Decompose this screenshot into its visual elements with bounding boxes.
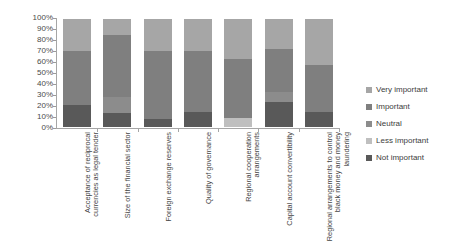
legend-swatch-icon <box>366 104 372 110</box>
legend-item[interactable]: Neutral <box>366 115 458 132</box>
bar-group <box>144 19 172 127</box>
stacked-bar[interactable] <box>63 19 91 127</box>
y-axis-tick-label: 0% <box>41 124 53 132</box>
legend-label: Less important <box>376 136 428 145</box>
legend-label: Neutral <box>376 119 402 128</box>
y-axis-tick-label: 80% <box>37 36 53 44</box>
bar-segment[interactable] <box>144 51 172 119</box>
x-axis-category-label: Capital account convertibility <box>286 132 300 244</box>
bar-group <box>184 19 212 127</box>
stacked-bar[interactable] <box>265 19 293 127</box>
bar-segment[interactable] <box>103 113 131 127</box>
bar-segment[interactable] <box>144 19 172 51</box>
stacked-bar-chart: 0%10%20%30%40%50%60%70%80%90%100% Accept… <box>0 0 459 249</box>
stacked-bar[interactable] <box>144 19 172 127</box>
bar-segment[interactable] <box>63 51 91 105</box>
legend-swatch-icon <box>366 121 372 127</box>
chart-legend: Very importantImportantNeutralLess impor… <box>366 81 458 166</box>
stacked-bar[interactable] <box>305 19 333 127</box>
bar-segment[interactable] <box>103 19 131 35</box>
bar-segment[interactable] <box>305 112 333 127</box>
stacked-bar[interactable] <box>103 19 131 127</box>
y-axis-tick-label: 30% <box>37 91 53 99</box>
bar-segment[interactable] <box>305 19 333 65</box>
x-axis-tick-mark <box>218 128 219 132</box>
x-axis-tick-mark <box>97 128 98 132</box>
stacked-bar[interactable] <box>184 19 212 127</box>
x-axis-tick-mark <box>178 128 179 132</box>
bar-segment[interactable] <box>265 49 293 92</box>
legend-item[interactable]: Less important <box>366 132 458 149</box>
y-axis-tick-label: 10% <box>37 113 53 121</box>
legend-swatch-icon <box>366 138 372 144</box>
bar-segment[interactable] <box>63 19 91 51</box>
y-axis: 0%10%20%30%40%50%60%70%80%90%100% <box>18 13 53 133</box>
bar-group <box>305 19 333 127</box>
x-axis-category-labels: Acceptance of reciprocal currencies as l… <box>57 132 339 248</box>
legend-swatch-icon <box>366 87 372 93</box>
legend-item[interactable]: Not important <box>366 149 458 166</box>
bar-segment[interactable] <box>265 102 293 127</box>
y-axis-tick-label: 40% <box>37 80 53 88</box>
bar-group <box>265 19 293 127</box>
x-axis-tick-mark <box>258 128 259 132</box>
y-axis-tick-label: 50% <box>37 69 53 77</box>
x-axis-tick-mark <box>138 128 139 132</box>
bar-segment[interactable] <box>224 19 252 59</box>
bar-segment[interactable] <box>265 19 293 49</box>
y-axis-tick-label: 70% <box>37 47 53 55</box>
legend-label: Not important <box>376 153 424 162</box>
bar-group <box>103 19 131 127</box>
bar-segment[interactable] <box>63 105 91 127</box>
x-axis-category-label: Acceptance of reciprocal currencies as l… <box>84 132 98 244</box>
bar-segment[interactable] <box>224 118 252 127</box>
bar-segment[interactable] <box>103 97 131 113</box>
x-axis-category-label: Quality of governance <box>205 132 219 244</box>
x-axis-tick-mark <box>299 128 300 132</box>
y-axis-tick-label: 60% <box>37 58 53 66</box>
x-axis-tick-mark <box>339 128 340 132</box>
bar-group <box>63 19 91 127</box>
y-axis-tick-label: 20% <box>37 102 53 110</box>
bar-segment[interactable] <box>103 35 131 97</box>
bar-segment[interactable] <box>305 65 333 111</box>
legend-label: Important <box>376 102 410 111</box>
x-axis-category-label: Foreign exchange reserves <box>165 132 179 244</box>
bar-segment[interactable] <box>184 19 212 51</box>
x-axis-category-label: Regional cooperation arrangements <box>245 132 259 244</box>
legend-item[interactable]: Important <box>366 98 458 115</box>
y-axis-tick-label: 100% <box>33 14 53 22</box>
x-axis-line <box>56 128 340 129</box>
stacked-bar[interactable] <box>224 19 252 127</box>
y-axis-tick-label: 90% <box>37 25 53 33</box>
legend-swatch-icon <box>366 155 372 161</box>
plot-area <box>57 19 339 127</box>
x-axis-category-label: Size of the financial sector <box>124 132 138 244</box>
bar-segment[interactable] <box>265 92 293 102</box>
bar-segment[interactable] <box>224 59 252 118</box>
legend-label: Very important <box>376 85 428 94</box>
bar-group <box>224 19 252 127</box>
bar-segment[interactable] <box>184 51 212 111</box>
x-axis-category-label: Regional arrangements to control black m… <box>326 132 340 244</box>
bar-segment[interactable] <box>144 119 172 127</box>
legend-item[interactable]: Very important <box>366 81 458 98</box>
bar-segment[interactable] <box>184 112 212 127</box>
